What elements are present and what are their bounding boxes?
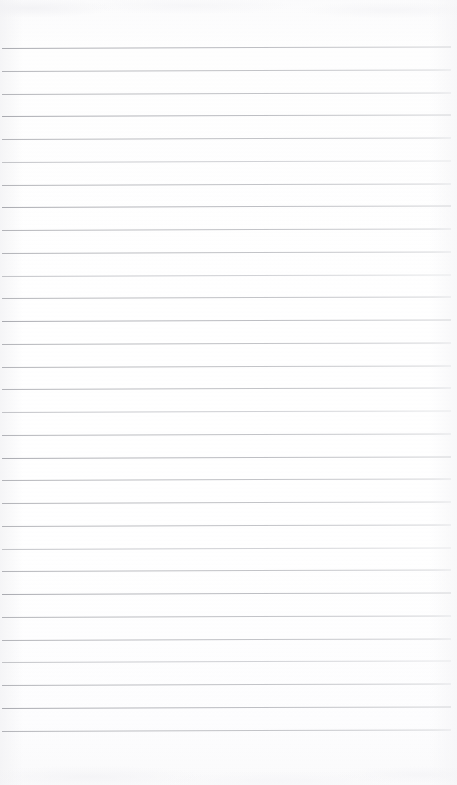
- ruled-body-region: [0, 48, 457, 732]
- scanned-page: [0, 0, 457, 785]
- bottom-margin-region: [0, 732, 457, 785]
